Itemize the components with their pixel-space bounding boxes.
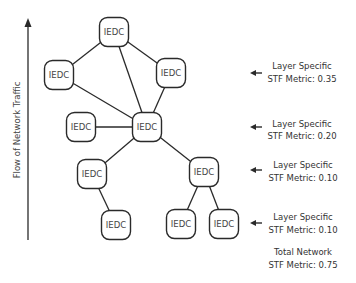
node-label: IEDC [214, 219, 234, 229]
node-label: IEDC [49, 70, 69, 80]
node-label: IEDC [171, 219, 191, 229]
node-label: IEDC [106, 220, 126, 230]
metric-value: STF Metric: 0.35 [267, 74, 336, 84]
arrow-left-head-icon [250, 167, 256, 173]
node-label: IEDC [194, 167, 214, 177]
metric-label: Layer Specific [272, 119, 332, 129]
metric-value: STF Metric: 0.10 [268, 173, 337, 183]
arrow-up-icon [25, 18, 32, 27]
metric-value: STF Metric: 0.20 [267, 131, 336, 141]
traffic-flow-axis: Flow of Network Traffic [12, 18, 32, 240]
network-diagram: IEDCIEDCIEDCIEDCIEDCIEDCIEDCIEDCIEDCIEDC… [0, 0, 356, 283]
iedc-node: IEDC [78, 160, 107, 189]
arrow-left-head-icon [250, 70, 256, 76]
total-value: STF Metric: 0.75 [268, 260, 337, 270]
metric-row-2: Layer Specific STF Metric: 0.10 [250, 160, 338, 183]
node-label: IEDC [104, 27, 124, 37]
iedc-node: IEDC [67, 113, 96, 142]
iedc-node: IEDC [157, 59, 186, 88]
total-metric: Total Network STF Metric: 0.75 [268, 247, 337, 270]
metric-label: Layer Specific [272, 61, 332, 71]
iedc-node: IEDC [210, 210, 239, 239]
metric-value: STF Metric: 0.10 [268, 225, 337, 235]
node-label: IEDC [137, 122, 157, 132]
arrow-left-head-icon [250, 124, 256, 130]
node-label: IEDC [71, 122, 91, 132]
node-label: IEDC [82, 169, 102, 179]
metric-label: Layer Specific [273, 212, 333, 222]
metric-row-0: Layer Specific STF Metric: 0.35 [250, 61, 337, 84]
iedc-node: IEDC [100, 18, 129, 47]
iedc-node: IEDC [167, 210, 196, 239]
iedc-node: IEDC [45, 61, 74, 90]
metric-row-3: Layer Specific STF Metric: 0.10 [250, 212, 338, 235]
arrow-left-head-icon [250, 220, 256, 226]
metric-row-1: Layer Specific STF Metric: 0.20 [250, 119, 337, 141]
axis-label: Flow of Network Traffic [12, 81, 22, 178]
iedc-node: IEDC [133, 113, 162, 142]
metric-label: Layer Specific [273, 160, 333, 170]
total-label: Total Network [273, 247, 332, 257]
nodes-group: IEDCIEDCIEDCIEDCIEDCIEDCIEDCIEDCIEDCIEDC [45, 18, 239, 240]
iedc-node: IEDC [102, 211, 131, 240]
iedc-node: IEDC [190, 158, 219, 187]
node-label: IEDC [161, 68, 181, 78]
